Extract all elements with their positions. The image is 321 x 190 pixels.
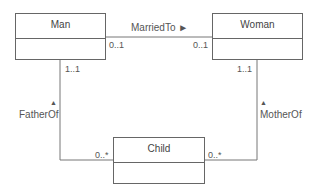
father-of-label: FatherOf: [19, 109, 58, 120]
class-child[interactable]: Child: [113, 137, 205, 184]
child-mother-multiplicity: 0..*: [208, 150, 222, 160]
father-of-arrow-icon: ▲: [50, 99, 57, 106]
mother-of-arrow-icon: ▲: [260, 99, 267, 106]
class-attributes: [16, 39, 105, 60]
class-man[interactable]: Man: [15, 13, 106, 60]
class-woman[interactable]: Woman: [212, 13, 303, 60]
class-name: Child: [114, 138, 204, 163]
class-name: Woman: [213, 14, 302, 39]
married-to-label: MarriedTo ►: [131, 22, 188, 33]
woman-married-multiplicity: 0..1: [193, 40, 208, 50]
mother-of-label: MotherOf: [260, 109, 302, 120]
class-attributes: [114, 163, 204, 184]
man-married-multiplicity: 0..1: [109, 40, 124, 50]
woman-mother-multiplicity: 1..1: [237, 64, 252, 74]
man-father-multiplicity: 1..1: [65, 64, 80, 74]
class-attributes: [213, 39, 302, 60]
child-father-multiplicity: 0..*: [95, 150, 109, 160]
class-name: Man: [16, 14, 105, 39]
